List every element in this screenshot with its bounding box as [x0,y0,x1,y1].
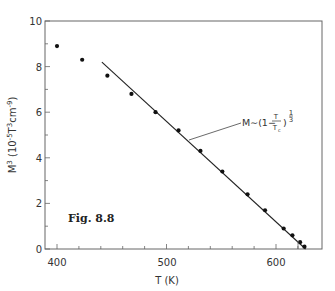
x-tick-label: 500 [157,257,176,268]
data-point [55,44,59,48]
fit-line [102,62,306,249]
x-tick-label: 600 [266,257,285,268]
y-axis-ticks [45,21,50,249]
annotation-leader [189,123,241,140]
x-axis-ticks [57,244,298,249]
data-point [129,92,133,96]
data-point [245,192,249,196]
annotation-formula: M∼(1− T T c ) 1 3 [242,109,293,133]
data-point [263,208,267,212]
y-tick-label: 8 [36,62,42,73]
svg-text:T: T [273,113,279,121]
data-point [80,58,84,62]
data-point [176,128,180,132]
svg-text:c: c [278,127,281,133]
x-axis-title: T (K) [154,275,179,286]
data-point [105,74,109,78]
y-tick-label: 2 [36,198,42,209]
data-point [282,226,286,230]
svg-text:3: 3 [289,116,293,124]
svg-text:T: T [272,124,278,132]
data-point [153,110,157,114]
data-point [220,169,224,173]
x-tick-label: 400 [47,257,66,268]
chart: 400 500 600 0 2 4 6 8 10 T (K) M3 (10-5T… [0,0,335,291]
svg-text:M∼(1−: M∼(1− [242,117,276,128]
y-tick-label: 6 [36,107,42,118]
data-point [302,245,306,249]
data-point [298,240,302,244]
fit-line-segment [102,62,306,249]
y-axis-title: M3 (10-5T3cm-9) [6,97,18,174]
figure-label: Fig. 8.8 [68,212,115,225]
data-point [290,233,294,237]
svg-text:M3 (10-5T3cm-9): M3 (10-5T3cm-9) [6,97,18,174]
y-tick-label: 4 [36,153,42,164]
y-tick-label: 0 [36,244,42,255]
data-point [198,149,202,153]
y-tick-label: 10 [29,16,42,27]
svg-text:): ) [283,117,287,128]
